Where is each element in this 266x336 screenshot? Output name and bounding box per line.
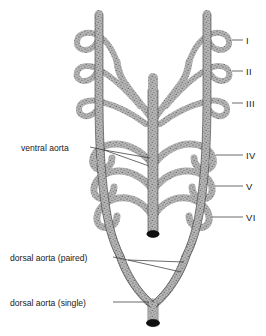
arch-numeral-6: VI xyxy=(246,213,256,223)
arch-numeral-2: II xyxy=(246,67,252,77)
label-ventral-aorta: ventral aorta xyxy=(21,144,69,153)
dorsal-aorta-single-cut-end xyxy=(146,319,159,326)
arch-numeral-1: I xyxy=(246,36,249,46)
label-dorsal-aorta-paired: dorsal aorta (paired) xyxy=(10,254,87,263)
arch-numeral-5: V xyxy=(246,182,253,192)
label-dorsal-aorta-single: dorsal aorta (single) xyxy=(10,299,86,308)
vessel-network xyxy=(77,14,230,322)
arch-numeral-3: III xyxy=(246,99,255,109)
aortic-arch-diagram xyxy=(0,0,266,336)
arch-numeral-4: IV xyxy=(246,151,256,161)
aortic-arch-figure: I II III IV V VI ventral aorta dorsal ao… xyxy=(0,0,266,336)
ventral-aorta-cut-end xyxy=(147,231,159,238)
